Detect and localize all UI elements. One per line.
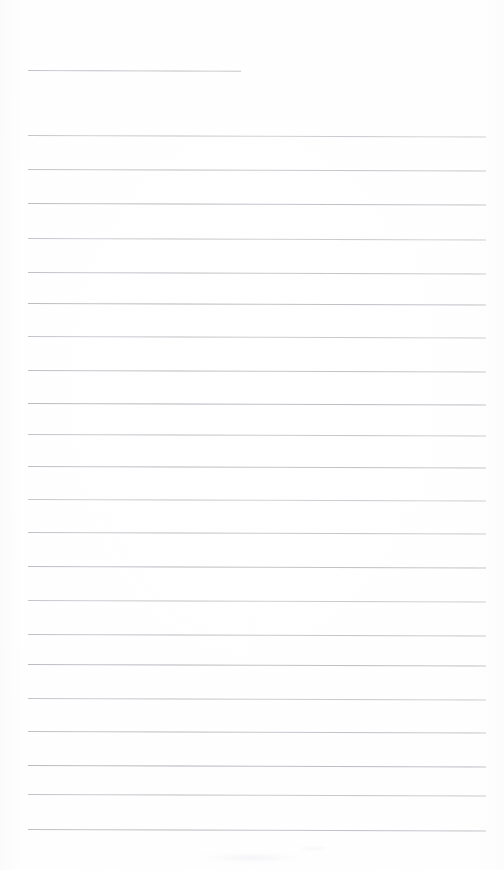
writing-area[interactable] (28, 120, 486, 835)
scanned-page (0, 0, 504, 870)
